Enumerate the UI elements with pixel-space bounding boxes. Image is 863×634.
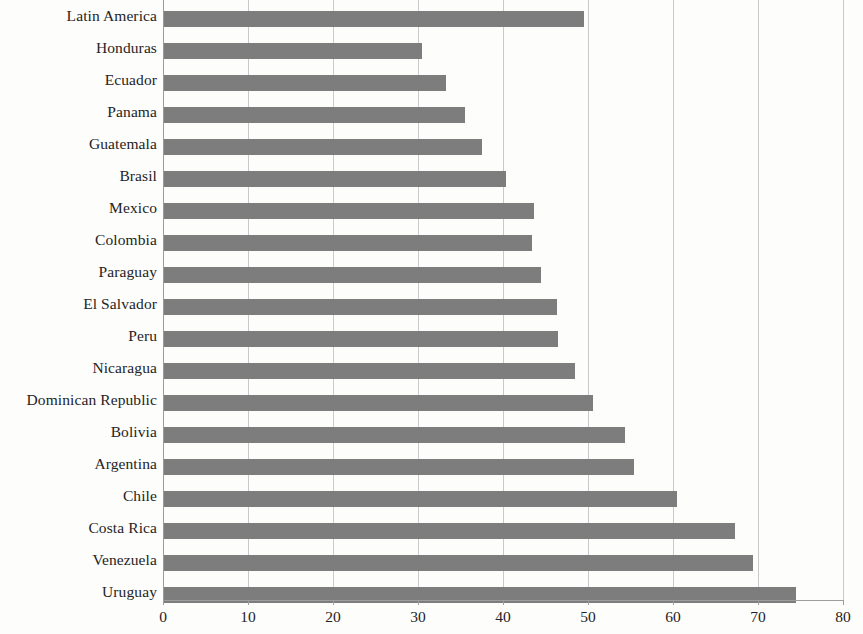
bar bbox=[164, 235, 532, 251]
bar-row: Chile bbox=[0, 480, 863, 512]
bar-category-label: Mexico bbox=[109, 195, 157, 221]
bar-category-label: Honduras bbox=[96, 35, 157, 61]
bar bbox=[164, 11, 584, 27]
bar-category-label: Nicaragua bbox=[92, 355, 157, 381]
x-tick-label: 30 bbox=[398, 607, 438, 627]
x-tick-label: 80 bbox=[823, 607, 863, 627]
bar-row: Argentina bbox=[0, 448, 863, 480]
plot-area: Latin AmericaHondurasEcuadorPanamaGuatem… bbox=[0, 0, 863, 634]
bar-row: Panama bbox=[0, 96, 863, 128]
bar-row: Ecuador bbox=[0, 64, 863, 96]
bar-row: Venezuela bbox=[0, 544, 863, 576]
bar-row: Costa Rica bbox=[0, 512, 863, 544]
bar-row: Paraguay bbox=[0, 256, 863, 288]
bar bbox=[164, 203, 534, 219]
bar-row: Guatemala bbox=[0, 128, 863, 160]
x-tick-mark bbox=[248, 600, 249, 605]
bar-row: Honduras bbox=[0, 32, 863, 64]
x-tick-label: 50 bbox=[568, 607, 608, 627]
bar-row: Brasil bbox=[0, 160, 863, 192]
x-tick-mark bbox=[673, 600, 674, 605]
bars-layer: Latin AmericaHondurasEcuadorPanamaGuatem… bbox=[0, 0, 863, 601]
bar-category-label: Uruguay bbox=[102, 579, 157, 605]
bar bbox=[164, 555, 753, 571]
bar-category-label: Brasil bbox=[119, 163, 157, 189]
bar-category-label: Peru bbox=[128, 323, 157, 349]
bar bbox=[164, 75, 446, 91]
bar bbox=[164, 331, 558, 347]
bar-category-label: Panama bbox=[107, 99, 157, 125]
bar-row: Mexico bbox=[0, 192, 863, 224]
bar-category-label: Latin America bbox=[67, 3, 157, 29]
x-tick-mark bbox=[843, 600, 844, 605]
bar bbox=[164, 171, 506, 187]
bar-chart: Latin AmericaHondurasEcuadorPanamaGuatem… bbox=[0, 0, 863, 634]
bar bbox=[164, 299, 557, 315]
x-tick-label: 70 bbox=[738, 607, 778, 627]
x-tick-label: 20 bbox=[313, 607, 353, 627]
x-tick-label: 0 bbox=[143, 607, 183, 627]
bar-row: Colombia bbox=[0, 224, 863, 256]
bar bbox=[164, 43, 422, 59]
bar bbox=[164, 491, 677, 507]
bar-category-label: El Salvador bbox=[83, 291, 157, 317]
x-tick-mark bbox=[163, 600, 164, 605]
bar-category-label: Ecuador bbox=[105, 67, 157, 93]
bar-category-label: Paraguay bbox=[99, 259, 157, 285]
bar bbox=[164, 107, 465, 123]
bar bbox=[164, 267, 541, 283]
x-tick-label: 10 bbox=[228, 607, 268, 627]
bar-category-label: Chile bbox=[123, 483, 157, 509]
bar-category-label: Guatemala bbox=[89, 131, 157, 157]
bar-row: Peru bbox=[0, 320, 863, 352]
bar-row: Uruguay bbox=[0, 576, 863, 608]
x-tick-mark bbox=[418, 600, 419, 605]
bar-category-label: Venezuela bbox=[92, 547, 157, 573]
bar bbox=[164, 427, 625, 443]
bar-row: Bolivia bbox=[0, 416, 863, 448]
bar-category-label: Argentina bbox=[94, 451, 157, 477]
bar-row: Nicaragua bbox=[0, 352, 863, 384]
x-tick-label: 60 bbox=[653, 607, 693, 627]
bar-row: El Salvador bbox=[0, 288, 863, 320]
x-tick-mark bbox=[758, 600, 759, 605]
x-tick-mark bbox=[333, 600, 334, 605]
bar bbox=[164, 139, 482, 155]
bar-row: Dominican Republic bbox=[0, 384, 863, 416]
bar-category-label: Costa Rica bbox=[88, 515, 157, 541]
x-tick-mark bbox=[588, 600, 589, 605]
bar-category-label: Dominican Republic bbox=[26, 387, 157, 413]
bar-category-label: Bolivia bbox=[111, 419, 157, 445]
bar bbox=[164, 459, 634, 475]
bar bbox=[164, 523, 735, 539]
bar bbox=[164, 363, 575, 379]
bar bbox=[164, 395, 593, 411]
x-tick-mark bbox=[503, 600, 504, 605]
bar-row: Latin America bbox=[0, 0, 863, 32]
bar-category-label: Colombia bbox=[95, 227, 157, 253]
x-tick-label: 40 bbox=[483, 607, 523, 627]
